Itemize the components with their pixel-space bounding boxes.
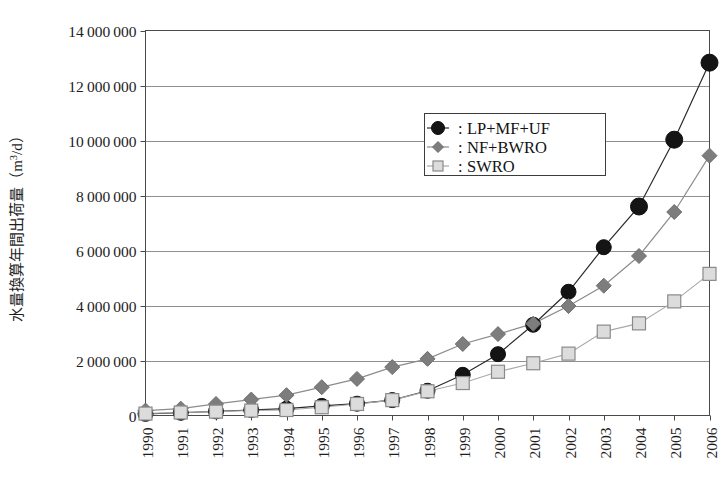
x-axis-tick-label: 2004 (632, 427, 649, 458)
chart-container: 02 000 0004 000 0006 000 0008 000 00010 … (0, 0, 722, 478)
y-axis-tick-label: 10 000 000 (68, 133, 136, 150)
data-point-swro (315, 401, 328, 414)
data-point-swro (421, 385, 434, 398)
data-point-swro (527, 357, 540, 370)
y-axis-tick-label: 12 000 000 (68, 78, 136, 95)
data-point-lp-mf-uf (596, 240, 611, 255)
x-axis-tick-label: 2005 (667, 427, 684, 458)
y-axis-tick-label: 14 000 000 (68, 23, 136, 40)
legend-separator: : (458, 138, 463, 157)
data-point-swro (703, 267, 716, 280)
legend-separator: : (458, 157, 463, 176)
x-axis-tick-label: 1992 (209, 428, 226, 459)
legend-separator: : (458, 119, 463, 138)
y-axis-tick-label: 6 000 000 (76, 243, 137, 260)
data-point-lp-mf-uf (631, 198, 648, 215)
y-axis-title-main: 水量換算年間出荷量（m (8, 160, 25, 322)
y-axis-tick-label: 2 000 000 (76, 353, 137, 370)
y-axis-tick-label: 8 000 000 (76, 188, 137, 205)
chart-legend: :LP+MF+UF:NF+BWRO:SWRO (425, 114, 606, 177)
data-point-swro (245, 404, 258, 417)
data-point-swro (562, 347, 575, 360)
legend-label-lp-mf-uf: LP+MF+UF (467, 119, 550, 138)
x-axis-tick-label: 2002 (562, 428, 579, 459)
data-point-lp-mf-uf (561, 284, 576, 299)
data-point-swro (139, 407, 152, 420)
data-point-swro (492, 365, 505, 378)
x-axis-tick-label: 2001 (526, 428, 543, 459)
x-axis-tick-label: 1994 (280, 427, 297, 458)
x-axis-tick-label: 2000 (491, 427, 508, 458)
data-point-lp-mf-uf (666, 131, 683, 148)
x-axis-tick-label: 1995 (315, 427, 332, 458)
x-axis-tick-label: 1991 (174, 428, 191, 459)
legend-marker-lp-mf-uf (432, 122, 445, 135)
data-point-swro (386, 394, 399, 407)
legend-marker-swro (433, 161, 443, 171)
legend-label-swro: SWRO (467, 157, 515, 176)
data-point-swro (351, 397, 364, 410)
data-point-swro (456, 377, 469, 390)
x-axis-tick-label: 2006 (703, 427, 720, 458)
legend-label-nf-bwro: NF+BWRO (467, 138, 547, 157)
x-axis-tick-label: 1999 (456, 427, 473, 458)
x-axis-tick-label: 1990 (139, 427, 156, 458)
y-axis-tick-label: 0 (129, 408, 137, 425)
x-axis-tick-label: 2003 (597, 427, 614, 458)
data-point-lp-mf-uf (701, 54, 718, 71)
data-point-swro (633, 317, 646, 330)
x-axis-tick-label: 1993 (244, 427, 261, 458)
data-point-swro (597, 325, 610, 338)
x-axis-tick-label: 1996 (350, 427, 367, 458)
data-point-swro (280, 404, 293, 417)
data-point-swro (668, 295, 681, 308)
data-point-swro (174, 406, 187, 419)
data-point-swro (210, 405, 223, 418)
x-axis-tick-label: 1998 (421, 427, 438, 458)
data-point-lp-mf-uf (491, 347, 506, 362)
y-axis-tick-label: 4 000 000 (76, 298, 137, 315)
x-axis-tick-label: 1997 (385, 427, 402, 458)
y-axis-title-tail: /d） (9, 128, 25, 155)
line-chart: 02 000 0004 000 0006 000 0008 000 00010 … (0, 0, 722, 478)
